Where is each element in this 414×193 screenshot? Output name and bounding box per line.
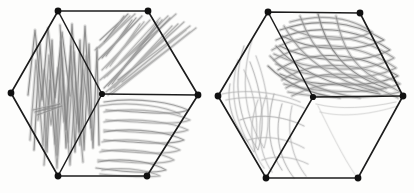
vertex-dot-top-left — [265, 9, 272, 16]
hexagon-spoke-right — [102, 94, 198, 95]
vertex-dot-bottom-left — [55, 173, 62, 180]
vertex-dot-bottom-left — [263, 175, 270, 182]
vertex-dot-center — [310, 94, 316, 100]
vertex-dot-left — [215, 93, 222, 100]
hexagon-sketch-svg — [0, 0, 414, 193]
vertex-dot-left — [8, 90, 15, 97]
vertex-dot-bottom-right — [144, 173, 151, 180]
vertex-dot-bottom-right — [355, 175, 362, 182]
vertex-dot-center — [99, 91, 105, 97]
hexagon-spoke-right — [313, 96, 403, 97]
vertex-dot-right — [400, 93, 407, 100]
vertex-dot-top-left — [55, 8, 62, 15]
vertex-dot-right — [195, 92, 202, 99]
vertex-dot-top-right — [145, 8, 152, 15]
vertex-dot-top-right — [357, 10, 364, 17]
sketch-canvas — [0, 0, 414, 193]
